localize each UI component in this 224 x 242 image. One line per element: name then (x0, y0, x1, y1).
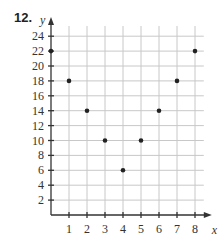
y-axis-label: y (39, 13, 46, 27)
x-tick-label: 3 (102, 222, 108, 236)
data-point (49, 49, 54, 54)
x-tick-label: 1 (66, 222, 72, 236)
axes: xy (39, 13, 218, 237)
data-point (103, 138, 108, 143)
y-tick-label: 18 (32, 74, 44, 88)
x-axis-arrow-icon (204, 212, 212, 218)
y-tick-label: 10 (32, 134, 44, 148)
ticks: 1234567824681012141618202224 (32, 29, 198, 236)
data-point (85, 108, 90, 113)
y-tick-label: 14 (32, 104, 44, 118)
x-tick-label: 6 (156, 222, 162, 236)
grid (51, 26, 204, 215)
y-tick-label: 20 (32, 59, 44, 73)
x-axis-label: x (211, 223, 218, 237)
y-tick-label: 22 (32, 44, 44, 58)
scatter-chart: xy 1234567824681012141618202224 (0, 0, 224, 242)
data-point (175, 79, 180, 84)
x-tick-label: 4 (120, 222, 126, 236)
data-point (157, 108, 162, 113)
y-tick-label: 8 (38, 148, 44, 162)
x-tick-label: 7 (174, 222, 180, 236)
y-tick-label: 6 (38, 163, 44, 177)
x-tick-label: 2 (84, 222, 90, 236)
data-point (67, 79, 72, 84)
data-point (139, 138, 144, 143)
x-tick-label: 8 (192, 222, 198, 236)
data-point (121, 168, 126, 173)
y-tick-label: 2 (38, 193, 44, 207)
y-tick-label: 16 (32, 89, 44, 103)
data-point (193, 49, 198, 54)
y-axis-arrow-icon (48, 17, 54, 25)
x-tick-label: 5 (138, 222, 144, 236)
y-tick-label: 4 (38, 178, 44, 192)
y-tick-label: 12 (32, 119, 44, 133)
y-tick-label: 24 (32, 29, 44, 43)
